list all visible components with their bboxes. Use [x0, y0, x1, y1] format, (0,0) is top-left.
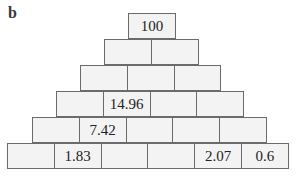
pyramid-row-6: 1.83 2.07 0.6	[7, 143, 289, 169]
pyramid-cell[interactable]: 14.96	[103, 91, 151, 117]
pyramid-cell[interactable]	[151, 39, 199, 65]
pyramid-row-2	[104, 39, 199, 65]
pyramid-cell[interactable]	[174, 65, 222, 91]
pyramid-cell[interactable]	[80, 65, 128, 91]
pyramid-cell[interactable]: 100	[128, 13, 176, 39]
number-pyramid: 100 14.96 7.42 1.83 2.07 0.6	[0, 0, 301, 179]
pyramid-cell[interactable]	[7, 143, 55, 169]
pyramid-cell[interactable]	[126, 117, 174, 143]
pyramid-row-4: 14.96	[56, 91, 244, 117]
pyramid-cell[interactable]	[104, 39, 152, 65]
pyramid-cell[interactable]: 2.07	[194, 143, 242, 169]
pyramid-cell[interactable]	[56, 91, 104, 117]
pyramid-cell[interactable]: 0.6	[241, 143, 289, 169]
pyramid-cell[interactable]	[150, 91, 198, 117]
pyramid-row-1: 100	[128, 13, 176, 39]
pyramid-cell[interactable]	[127, 65, 175, 91]
pyramid-cell[interactable]	[147, 143, 195, 169]
pyramid-row-3	[80, 65, 221, 91]
pyramid-cell[interactable]	[219, 117, 267, 143]
pyramid-cell[interactable]	[32, 117, 80, 143]
pyramid-cell[interactable]	[172, 117, 220, 143]
pyramid-cell[interactable]	[101, 143, 149, 169]
pyramid-cell[interactable]	[196, 91, 244, 117]
pyramid-row-5: 7.42	[32, 117, 267, 143]
pyramid-cell[interactable]: 1.83	[54, 143, 102, 169]
pyramid-cell[interactable]: 7.42	[79, 117, 127, 143]
